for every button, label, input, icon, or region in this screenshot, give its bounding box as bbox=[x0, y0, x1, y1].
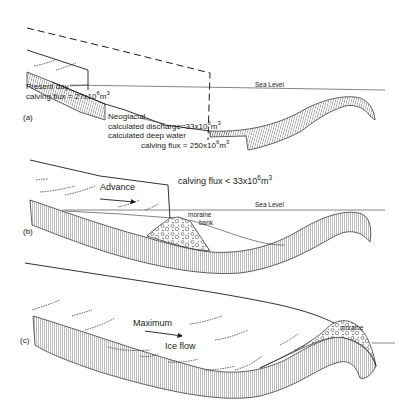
moraine-bank-label-line2: bank bbox=[199, 219, 214, 226]
seabed-hatched bbox=[33, 316, 376, 398]
seabed-block bbox=[210, 131, 230, 137]
ice-flow-arrow bbox=[145, 331, 182, 336]
calculated-discharge-label: calculated discharge=33x106m3 bbox=[108, 120, 221, 131]
crevasse-mark bbox=[85, 318, 115, 330]
crevasse-mark bbox=[145, 204, 158, 210]
panel-a: Sea Level Present day calving flux = 27x… bbox=[23, 28, 385, 150]
deep-water-label: calculated deep water bbox=[108, 131, 186, 140]
crevasse-mark bbox=[34, 60, 55, 66]
crevasse-mark bbox=[190, 316, 222, 324]
crevasse-mark bbox=[205, 366, 235, 370]
panel-c: Maximum Ice flow moraine (c) bbox=[20, 263, 395, 398]
panel-label-c: (c) bbox=[20, 336, 30, 345]
sea-level-line bbox=[70, 85, 385, 90]
present-day-flux-label: calving flux = 27x106m3 bbox=[26, 90, 111, 101]
advance-label: Advance bbox=[100, 182, 135, 192]
sea-level-label: Sea Level bbox=[255, 81, 284, 88]
panel-b: Sea Level Advance calving flux < 33x106m… bbox=[23, 160, 385, 274]
panel-label-b: (b) bbox=[23, 227, 33, 236]
ice-flow-label: Ice flow bbox=[165, 341, 196, 351]
sea-level-label: Sea Level bbox=[255, 201, 284, 208]
crevasse-mark bbox=[72, 310, 92, 316]
advance-arrow bbox=[100, 199, 135, 202]
crevasse-mark bbox=[280, 334, 298, 345]
panel-label-a: (a) bbox=[23, 113, 33, 122]
crevasse-mark bbox=[235, 356, 262, 370]
moraine-label: moraine bbox=[340, 324, 364, 331]
ice-base-line bbox=[65, 211, 172, 218]
crevasse-mark bbox=[40, 186, 75, 192]
deep-water-flux-label: calving flux = 250x106m3 bbox=[141, 139, 230, 150]
crevasse-mark bbox=[56, 63, 76, 70]
glacier-stages-diagram: Sea Level Present day calving flux = 27x… bbox=[0, 0, 416, 417]
seabed-sill-hatched bbox=[210, 97, 375, 150]
maximum-label: Maximum bbox=[133, 318, 172, 328]
crevasse-mark bbox=[215, 330, 248, 340]
crevasse-mark bbox=[36, 179, 48, 180]
calving-flux-b-label: calving flux < 33x106m3 bbox=[178, 174, 272, 186]
present-day-label: Present day bbox=[26, 82, 69, 91]
neoglacial-label: Neoglacial bbox=[108, 112, 146, 121]
ice-surface-maximum bbox=[25, 263, 340, 326]
crevasse-mark bbox=[32, 300, 60, 310]
moraine-bank-label-line1: moraine bbox=[188, 211, 212, 218]
